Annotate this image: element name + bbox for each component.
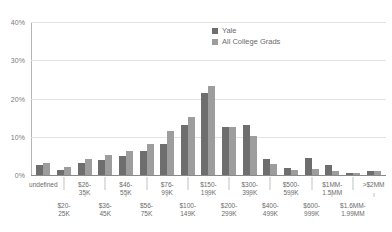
bar-group [157, 22, 178, 175]
bar-yale [284, 168, 291, 175]
bar-all-college-grads [291, 170, 298, 175]
x-axis-tick-mark [146, 177, 147, 190]
x-axis-tick-cell: $36-45K [95, 176, 116, 228]
x-axis-tick-label: $1.6MM-1.99MM [340, 202, 366, 218]
x-axis-tick-mark [249, 193, 250, 197]
bar-yale [346, 173, 353, 175]
bar-all-college-grads [188, 117, 195, 175]
bar-group [343, 22, 364, 175]
legend-item-yale: Yale [212, 27, 280, 35]
y-axis-tick-label: 20% [11, 95, 25, 102]
bar-yale [78, 163, 85, 175]
x-axis-tick-cell: $600-999K [301, 176, 322, 228]
bar-group [322, 22, 343, 175]
x-axis-tick-label: $20-25K [57, 202, 70, 218]
x-axis-tick-cell: $300-399K [239, 176, 260, 228]
bar-yale [36, 165, 43, 175]
bar-all-college-grads [167, 131, 174, 175]
y-axis-tick-label: 10% [11, 133, 25, 140]
bar-yale [98, 160, 105, 175]
x-axis-tick-label: $36-45K [99, 202, 112, 218]
bar-all-college-grads [270, 164, 277, 175]
x-axis-tick-label: $100-149K [179, 202, 196, 218]
bar-yale [201, 93, 208, 175]
bar-yale [305, 158, 312, 175]
x-axis-tick-cell: $500-599K [281, 176, 302, 228]
x-axis-tick-cell: $46-55K [116, 176, 137, 228]
x-axis-tick-label: $400-499K [262, 202, 279, 218]
bar-all-college-grads [353, 173, 360, 175]
legend-item-all-college-grads: All College Grads [212, 38, 280, 46]
x-axis-labels: undefined$20-25K$26-35K$36-45K$46-55K$56… [31, 176, 386, 228]
bar-group [116, 22, 137, 175]
legend-swatch-icon-all-college-grads [212, 39, 218, 45]
bar-all-college-grads [208, 86, 215, 176]
x-axis-tick-mark [187, 177, 188, 190]
x-axis-tick-mark [167, 193, 168, 197]
bar-all-college-grads [147, 144, 154, 175]
bar-all-college-grads [126, 151, 133, 175]
bar-group [136, 22, 157, 175]
x-axis-tick-mark [208, 193, 209, 197]
x-axis-tick-cell: >$2MM [363, 176, 384, 228]
x-axis-tick-cell: $200-299K [219, 176, 240, 228]
bar-series-container [31, 22, 386, 175]
x-axis-tick-mark [125, 193, 126, 197]
bar-group [363, 22, 384, 175]
bar-group [177, 22, 198, 175]
bar-group [301, 22, 322, 175]
bar-yale [57, 170, 64, 175]
x-axis-tick-cell: $100-149K [177, 176, 198, 228]
x-axis-tick-label: $200-299K [221, 202, 238, 218]
x-axis-tick-cell: $150-199K [198, 176, 219, 228]
bar-all-college-grads [229, 127, 236, 175]
x-axis-tick-mark [352, 177, 353, 190]
bar-group [74, 22, 95, 175]
bar-yale [160, 144, 167, 175]
bar-yale [263, 159, 270, 175]
bar-group [95, 22, 116, 175]
bar-yale [367, 171, 374, 175]
legend-swatch-icon-yale [212, 28, 218, 34]
legend-label-yale: Yale [222, 27, 236, 35]
x-axis-tick-cell: undefined [33, 176, 54, 228]
x-axis-tick-mark [291, 193, 292, 197]
x-axis-tick-mark [373, 193, 374, 197]
y-axis-labels: 0%10%20%30%40% [0, 22, 28, 175]
x-axis-tick-cell: $56-75K [136, 176, 157, 228]
x-axis-tick-mark [229, 177, 230, 190]
y-axis-tick-label: 30% [11, 57, 25, 64]
x-axis-tick-label: $600-999K [303, 202, 320, 218]
bar-all-college-grads [374, 171, 381, 175]
bar-all-college-grads [332, 171, 339, 175]
x-axis-tick-cell: $400-499K [260, 176, 281, 228]
bar-group [281, 22, 302, 175]
bar-all-college-grads [250, 136, 257, 175]
x-axis-tick-cell: $76-99K [157, 176, 178, 228]
bar-yale [243, 125, 250, 175]
y-axis-tick-label: 0% [15, 172, 25, 179]
x-axis-tick-cell: $20-25K [54, 176, 75, 228]
x-axis-tick-mark [63, 177, 64, 190]
bar-group [54, 22, 75, 175]
x-axis-tick-cell: $1.6MM-1.99MM [343, 176, 364, 228]
plot-area [31, 22, 386, 175]
x-axis-tick-mark [105, 177, 106, 190]
legend-label-all-college-grads: All College Grads [222, 38, 280, 46]
x-axis-tick-cell: $26-35K [74, 176, 95, 228]
x-axis-tick-mark [332, 193, 333, 197]
bar-all-college-grads [105, 155, 112, 175]
bar-group [33, 22, 54, 175]
bar-yale [181, 125, 188, 175]
x-axis-tick-mark [84, 193, 85, 197]
x-axis-tick-mark [311, 177, 312, 190]
bar-yale [140, 151, 147, 175]
chart-legend: Yale All College Grads [212, 27, 280, 46]
bar-all-college-grads [312, 169, 319, 175]
bar-all-college-grads [64, 167, 71, 175]
bar-all-college-grads [43, 163, 50, 175]
bar-chart: 0%10%20%30%40% Yale All College Grads un… [0, 0, 392, 232]
bar-yale [222, 127, 229, 175]
bar-all-college-grads [85, 159, 92, 175]
x-axis-tick-mark [270, 177, 271, 190]
